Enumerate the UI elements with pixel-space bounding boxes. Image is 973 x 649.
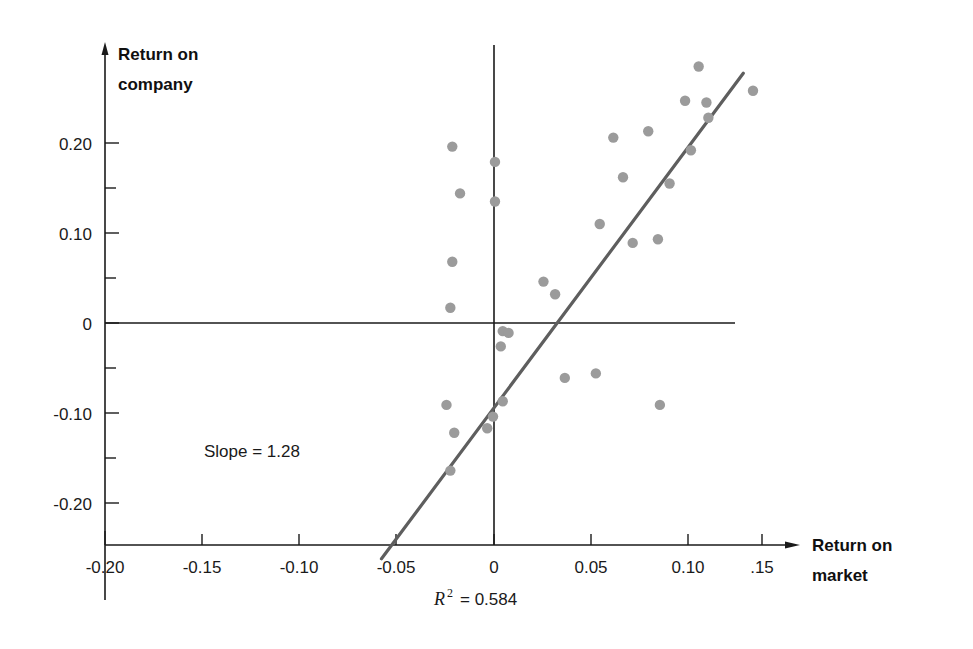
y-axis-title-line2: company bbox=[118, 75, 193, 94]
chart-canvas: 0.20 0.10 0 -0.10 -0.20 -0.20 -0.15 -0.1… bbox=[0, 0, 973, 649]
data-point bbox=[538, 276, 548, 286]
x-tick-marks bbox=[105, 531, 762, 545]
data-point bbox=[447, 141, 457, 151]
x-tick-label: -0.10 bbox=[280, 558, 319, 577]
x-tick-label: 0 bbox=[489, 558, 498, 577]
data-point bbox=[445, 303, 455, 313]
data-point bbox=[680, 96, 690, 106]
data-point bbox=[703, 113, 713, 123]
x-tick-label: 0.05 bbox=[574, 558, 607, 577]
data-point bbox=[560, 373, 570, 383]
data-point bbox=[653, 234, 663, 244]
x-axis-title-line1: Return on bbox=[812, 536, 892, 555]
x-tick-label: .15 bbox=[750, 558, 774, 577]
x-axis-arrow-icon bbox=[785, 542, 800, 549]
x-tick-label: -0.20 bbox=[86, 558, 125, 577]
y-axis-title-line1: Return on bbox=[118, 45, 198, 64]
data-point bbox=[447, 257, 457, 267]
data-point bbox=[595, 219, 605, 229]
y-tick-marks-major bbox=[105, 143, 119, 503]
y-tick-label: 0 bbox=[83, 315, 92, 334]
data-point bbox=[449, 428, 459, 438]
data-point bbox=[643, 126, 653, 136]
r-squared-value: = 0.584 bbox=[460, 590, 517, 609]
data-point bbox=[482, 423, 492, 433]
data-point bbox=[488, 411, 498, 421]
data-point bbox=[441, 400, 451, 410]
data-point bbox=[498, 396, 508, 406]
x-tick-label: 0.10 bbox=[671, 558, 704, 577]
data-point bbox=[490, 196, 500, 206]
data-point bbox=[591, 368, 601, 378]
data-point bbox=[701, 97, 711, 107]
data-point bbox=[686, 145, 696, 155]
data-point bbox=[655, 400, 665, 410]
y-tick-label: 0.20 bbox=[59, 135, 92, 154]
y-tick-label: -0.10 bbox=[53, 405, 92, 424]
x-axis-title-line2: market bbox=[812, 566, 868, 585]
data-point bbox=[503, 328, 513, 338]
data-point bbox=[608, 132, 618, 142]
y-tick-label: -0.20 bbox=[53, 495, 92, 514]
data-point bbox=[455, 188, 465, 198]
data-point bbox=[628, 238, 638, 248]
scatter-chart-figure: 0.20 0.10 0 -0.10 -0.20 -0.20 -0.15 -0.1… bbox=[0, 0, 973, 649]
r-squared-annotation: R 2 = 0.584 bbox=[433, 586, 517, 609]
data-point bbox=[748, 86, 758, 96]
x-tick-label: -0.15 bbox=[183, 558, 222, 577]
r-squared-exponent: 2 bbox=[447, 586, 453, 600]
r-squared-symbol: R bbox=[433, 589, 445, 609]
slope-annotation: Slope = 1.28 bbox=[204, 442, 300, 461]
data-point bbox=[664, 178, 674, 188]
data-point bbox=[618, 172, 628, 182]
y-tick-label: 0.10 bbox=[59, 225, 92, 244]
data-point bbox=[550, 289, 560, 299]
y-axis-arrow-icon bbox=[102, 42, 109, 55]
data-point bbox=[496, 341, 506, 351]
x-axis bbox=[105, 542, 800, 549]
data-point bbox=[693, 61, 703, 71]
data-point bbox=[490, 157, 500, 167]
y-axis bbox=[102, 42, 109, 600]
x-tick-label: -0.05 bbox=[377, 558, 416, 577]
data-point bbox=[445, 465, 455, 475]
